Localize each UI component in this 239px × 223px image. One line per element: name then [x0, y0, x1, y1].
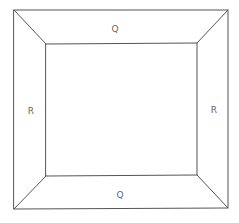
- label-left-face: R: [28, 106, 34, 116]
- label-bottom-face: Q: [116, 190, 123, 200]
- diagonal-top-left: [14, 10, 46, 44]
- diagonal-top-right: [197, 10, 228, 43]
- diagonal-bottom-right: [197, 175, 228, 208]
- inner-square: [46, 43, 197, 176]
- frustum-diagram: Q Q R R: [0, 0, 239, 223]
- label-right-face: R: [211, 105, 217, 115]
- label-top-face: Q: [111, 24, 118, 34]
- diagonal-bottom-left: [14, 176, 46, 209]
